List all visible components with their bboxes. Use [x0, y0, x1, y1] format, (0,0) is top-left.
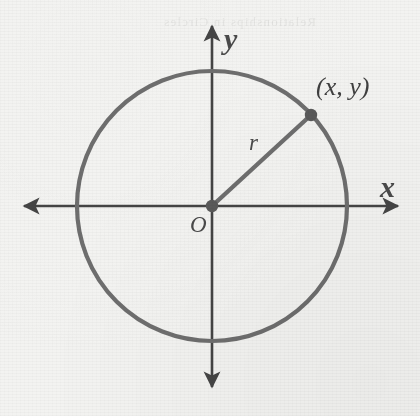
- x-axis-label: x: [380, 170, 395, 204]
- radius-segment: [212, 115, 311, 206]
- figure-canvas: Relationships in Circles y x O r (x, y): [0, 0, 420, 416]
- circle-point-dot: [305, 109, 317, 121]
- circle-diagram-svg: [0, 0, 420, 416]
- origin-point-dot: [206, 200, 218, 212]
- origin-label: O: [190, 212, 207, 238]
- radius-label: r: [249, 130, 258, 156]
- y-axis-label: y: [224, 22, 237, 56]
- coordinate-point-label: (x, y): [316, 72, 369, 102]
